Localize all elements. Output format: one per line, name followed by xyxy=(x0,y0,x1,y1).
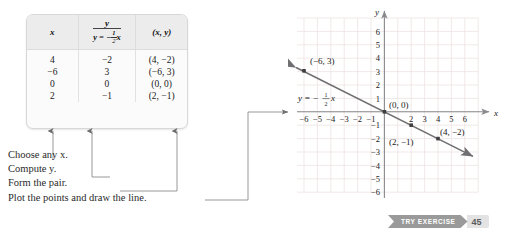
cell-pair: (0, 0) xyxy=(136,78,187,90)
x-tick: 4 xyxy=(436,114,441,124)
cell-y: −2 xyxy=(78,50,136,67)
x-tick: −5 xyxy=(313,114,322,124)
try-exercise-badge[interactable]: TRY EXERCISE 45 xyxy=(388,215,489,228)
cell-x: 2 xyxy=(27,90,78,102)
y-tick: −4 xyxy=(371,161,381,171)
x-axis-label: x xyxy=(493,108,498,118)
point-label-4-neg2: (4, −2) xyxy=(440,127,465,137)
cell-y: 3 xyxy=(78,66,136,78)
column-header-x: x xyxy=(27,15,78,50)
leader-arrow-plot-points xyxy=(248,112,288,200)
equation-variable: x xyxy=(330,93,335,103)
cell-x: −6 xyxy=(27,66,78,78)
y-tick: −1 xyxy=(371,120,380,130)
try-exercise-number[interactable]: 45 xyxy=(467,215,489,228)
note-plot-points: Plot the points and draw the line. xyxy=(8,192,147,203)
try-exercise-ribbon[interactable]: TRY EXERCISE xyxy=(388,215,468,228)
header-y-numerator: y xyxy=(93,19,121,29)
y-tick: −5 xyxy=(371,174,380,184)
cell-pair: (2, −1) xyxy=(136,90,187,102)
note-line: Form the pair. xyxy=(8,176,147,190)
header-y-fraction: y y = −12x xyxy=(93,19,121,44)
note-choose-x: Choose any x. xyxy=(8,149,68,160)
data-point-0-0 xyxy=(383,110,387,114)
table-row: 2 −1 (2, −1) xyxy=(27,90,187,102)
table-row: 0 0 (0, 0) xyxy=(27,78,187,90)
equation-label: y = − 1 2 x xyxy=(297,92,335,107)
xy-value-table: x y y = −12x (x, y) 4 −2 xyxy=(26,14,188,129)
cell-y: −1 xyxy=(78,90,136,102)
y-tick: 3 xyxy=(376,67,380,77)
header-pair-label: (x, y) xyxy=(152,27,171,37)
data-point-4-neg2 xyxy=(436,137,440,141)
y-tick: −2 xyxy=(371,134,380,144)
y-tick: 5 xyxy=(376,40,380,50)
x-axis-tick-labels: −6 −5 −4 −3 −2 −1 2 3 4 5 6 xyxy=(299,114,466,124)
cell-pair: (−6, 3) xyxy=(136,66,187,78)
column-header-pair: (x, y) xyxy=(136,15,187,50)
x-tick: −4 xyxy=(326,114,336,124)
header-eq-prefix: y = − xyxy=(93,33,111,43)
y-tick: −6 xyxy=(371,187,380,197)
x-tick: 3 xyxy=(422,114,426,124)
header-y-denominator: y = −12x xyxy=(93,29,121,44)
table-header-row: x y y = −12x (x, y) xyxy=(27,15,187,50)
note-compute-y: Compute y. xyxy=(8,163,56,174)
try-exercise-label: TRY EXERCISE xyxy=(401,218,456,225)
point-label-0-0: (0, 0) xyxy=(389,100,409,110)
column-header-y: y y = −12x xyxy=(78,15,136,50)
header-x-label: x xyxy=(50,27,55,37)
point-label-neg6-3: (−6, 3) xyxy=(310,56,335,66)
cell-x: 0 xyxy=(27,78,78,90)
header-eq-suffix: x xyxy=(117,33,121,43)
note-line: Plot the points and draw the line. xyxy=(8,191,147,205)
x-tick: 5 xyxy=(449,114,453,124)
note-line: Choose any x. xyxy=(8,148,147,162)
x-tick: −3 xyxy=(340,114,349,124)
equation-numerator: 1 xyxy=(325,92,328,98)
table-row: 4 −2 (4, −2) xyxy=(27,50,187,67)
table-row: −6 3 (−6, 3) xyxy=(27,66,187,78)
note-form-pair: Form the pair. xyxy=(8,177,67,188)
y-tick: 6 xyxy=(376,27,380,37)
equation-denominator: 2 xyxy=(325,101,328,107)
table-body: 4 −2 (4, −2) −6 3 (−6, 3) 0 0 (0, 0) 2 −… xyxy=(27,50,187,103)
y-axis-label: y xyxy=(374,7,379,17)
cell-pair: (4, −2) xyxy=(136,50,187,67)
x-tick: −6 xyxy=(299,114,308,124)
cell-x: 4 xyxy=(27,50,78,67)
x-tick: 6 xyxy=(463,114,467,124)
figure-root: x y y = −12x (x, y) 4 −2 xyxy=(0,0,523,239)
annotation-notes: Choose any x. Compute y. Form the pair. … xyxy=(8,148,147,205)
y-tick: 2 xyxy=(376,80,380,90)
coordinate-plane-chart: −6 −5 −4 −3 −2 −1 2 3 4 5 6 6 5 4 3 2 1 … xyxy=(288,2,523,202)
y-tick: −3 xyxy=(371,147,380,157)
equation-lhs: y = − xyxy=(297,93,319,103)
note-line: Compute y. xyxy=(8,162,147,176)
point-label-2-neg1: (2, −1) xyxy=(389,137,414,147)
y-tick: 1 xyxy=(376,94,380,104)
cell-y: 0 xyxy=(78,78,136,90)
data-point-2-neg1 xyxy=(409,123,413,127)
data-point-neg6-3 xyxy=(302,69,306,73)
x-tick: 2 xyxy=(409,114,413,124)
table: x y y = −12x (x, y) 4 −2 xyxy=(27,15,187,102)
x-tick: −2 xyxy=(353,114,362,124)
